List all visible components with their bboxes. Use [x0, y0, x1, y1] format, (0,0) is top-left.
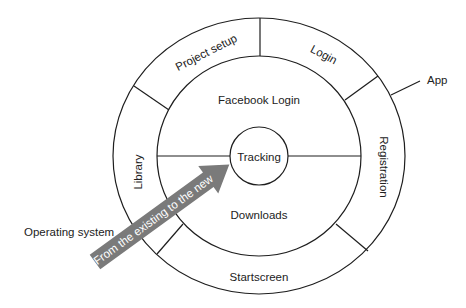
app-leader-line: [391, 81, 420, 95]
segment-label-login: Login: [309, 43, 339, 67]
external-label-operating-system: Operating system: [24, 226, 114, 238]
outer-divider-lower-left: [157, 224, 183, 254]
app-architecture-diagram: Project setup Login Registration Startsc…: [0, 0, 466, 308]
arrow-label: From the existing to the new: [91, 172, 215, 267]
outer-divider-upper-left: [134, 86, 169, 110]
outer-divider-lower-right: [336, 224, 368, 251]
middle-label-downloads: Downloads: [231, 209, 288, 221]
external-label-app: App: [427, 74, 447, 86]
center-label-tracking: Tracking: [237, 151, 281, 163]
segment-label-registration: Registration: [378, 136, 390, 197]
middle-label-facebook-login: Facebook Login: [218, 94, 300, 106]
segment-label-library: Library: [132, 154, 144, 189]
outer-divider-upper-right: [345, 76, 378, 100]
segment-label-startscreen: Startscreen: [230, 271, 289, 283]
transition-arrow: From the existing to the new: [85, 151, 239, 276]
